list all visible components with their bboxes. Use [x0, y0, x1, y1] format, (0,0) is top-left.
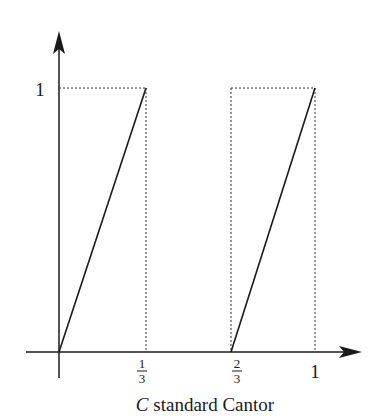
fraction-denominator: 3 — [139, 371, 146, 386]
caption: C standard Cantor — [136, 394, 275, 415]
function-graph — [59, 88, 315, 352]
x-tick-label-1: 1 — [310, 361, 320, 382]
x-tick-one-third: 1 3 — [137, 356, 147, 386]
fraction-denominator: 3 — [234, 371, 241, 386]
caption-text: standard Cantor — [153, 394, 275, 415]
axes — [26, 44, 350, 378]
fraction-numerator: 2 — [234, 356, 241, 371]
cantor-map-diagram: 1 1 3 2 3 1 C standard Cantor — [0, 0, 381, 418]
dotted-guides — [59, 88, 315, 352]
fraction-numerator: 1 — [139, 356, 146, 371]
x-tick-two-thirds: 2 3 — [232, 356, 242, 386]
y-tick-label-1: 1 — [35, 79, 45, 100]
ramp-segment-2 — [231, 88, 315, 352]
ramp-segment-1 — [59, 88, 146, 352]
caption-symbol: C — [136, 394, 149, 415]
